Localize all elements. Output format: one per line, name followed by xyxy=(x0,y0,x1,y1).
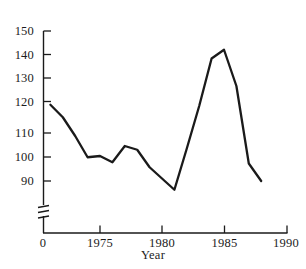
chart-figure: 150 140 130 120 110 100 90 0 1975 1980 1… xyxy=(0,0,306,269)
data-series-line xyxy=(50,50,261,190)
y-tick-label-110: 110 xyxy=(2,126,34,141)
y-tick-label-140: 140 xyxy=(2,48,34,63)
y-tick-label-150: 150 xyxy=(2,24,34,39)
y-tick-label-100: 100 xyxy=(2,150,34,165)
y-axis-ticks xyxy=(44,31,52,181)
chart-plot-area xyxy=(0,0,306,269)
x-axis-ticks xyxy=(100,226,287,234)
y-tick-label-90: 90 xyxy=(2,174,34,189)
x-axis-title: Year xyxy=(0,248,306,263)
y-tick-label-120: 120 xyxy=(2,95,34,110)
y-tick-label-130: 130 xyxy=(2,71,34,86)
